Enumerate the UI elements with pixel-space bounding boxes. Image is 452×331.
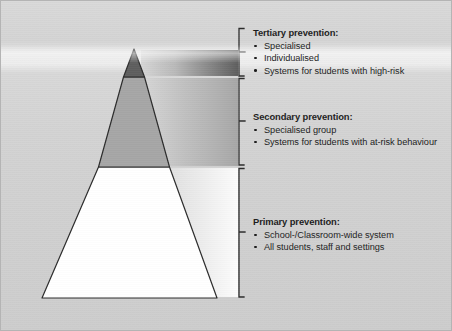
- secondary-prevention-label: Secondary prevention: Specialised group …: [253, 111, 443, 149]
- list-item-label: Specialised: [264, 41, 310, 51]
- bullet-icon: [254, 129, 257, 132]
- secondary-heading: Secondary prevention:: [253, 111, 443, 123]
- list-item-label: Systems for students with at-risk behavi…: [264, 137, 437, 147]
- bullet-icon: [254, 57, 257, 60]
- tertiary-bullet-list: Specialised Individualised Systems for s…: [253, 40, 451, 77]
- list-item: School-/Classroom-wide system: [253, 229, 448, 241]
- list-item-label: Individualised: [264, 53, 319, 63]
- bullet-icon: [254, 246, 257, 249]
- list-item: Systems for students with at-risk behavi…: [253, 136, 443, 148]
- list-item-label: Specialised group: [264, 125, 336, 135]
- secondary-bullet-list: Specialised group Systems for students w…: [253, 124, 443, 149]
- tertiary-prevention-label: Tertiary prevention: Specialised Individ…: [253, 27, 451, 77]
- bullet-icon: [254, 234, 257, 237]
- bullet-icon: [254, 69, 257, 72]
- primary-bullet-list: School-/Classroom-wide system All studen…: [253, 229, 448, 254]
- prevention-pyramid-figure: Tertiary prevention: Specialised Individ…: [0, 0, 452, 331]
- bullet-icon: [254, 141, 257, 144]
- tertiary-heading: Tertiary prevention:: [253, 27, 451, 39]
- primary-bracket: [239, 169, 245, 298]
- tier-brackets: [239, 29, 245, 298]
- primary-heading: Primary prevention:: [253, 216, 448, 228]
- list-item: Specialised group: [253, 124, 443, 136]
- primary-prevention-label: Primary prevention: School-/Classroom-wi…: [253, 216, 448, 254]
- list-item: Individualised: [253, 52, 451, 64]
- list-item-label: School-/Classroom-wide system: [264, 230, 394, 240]
- list-item: Systems for students with high-risk: [253, 65, 451, 77]
- secondary-bracket: [239, 79, 245, 166]
- list-item-label: Systems for students with high-risk: [264, 66, 404, 76]
- bullet-icon: [254, 45, 257, 48]
- list-item-label: All students, staff and settings: [264, 242, 384, 252]
- list-item: Specialised: [253, 40, 451, 52]
- list-item: All students, staff and settings: [253, 241, 448, 253]
